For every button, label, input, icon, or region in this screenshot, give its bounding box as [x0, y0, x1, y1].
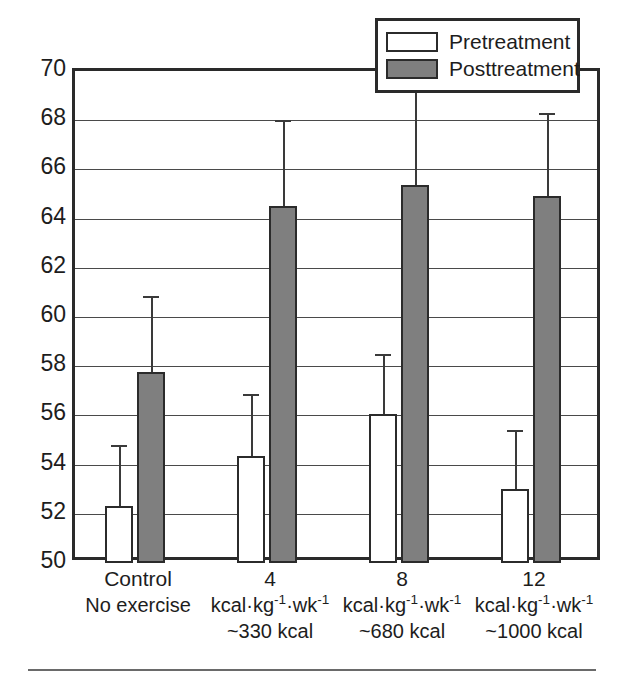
gridline-68 [75, 120, 597, 121]
chart-legend: Pretreatment Posttreatment [375, 18, 580, 93]
error-bar-cap-pre-2 [375, 354, 391, 356]
y-axis-tick-66: 66 [14, 155, 66, 178]
bottom-divider-rule [28, 669, 596, 671]
x-label-line2-1: kcal·kg-1·wk-1 [204, 592, 336, 618]
x-label-line2-0: No exercise [72, 592, 204, 618]
x-label-line2-3: kcal·kg-1·wk-1 [468, 592, 600, 618]
bar-posttreatment-3 [533, 196, 561, 563]
bar-posttreatment-2 [401, 185, 429, 563]
x-label-line1-2: 8 [336, 566, 468, 592]
x-label-line3-2: ~680 kcal [336, 618, 468, 644]
x-label-group-3: 12kcal·kg-1·wk-1~1000 kcal [468, 566, 600, 644]
x-label-line3-1: ~330 kcal [204, 618, 336, 644]
legend-label-posttreatment: Posttreatment [449, 58, 580, 79]
gridline-60 [75, 317, 597, 318]
y-axis-tick-68: 68 [14, 106, 66, 129]
x-label-line3-3: ~1000 kcal [468, 618, 600, 644]
error-bar-line-pre-3 [515, 430, 517, 489]
bar-posttreatment-0 [137, 372, 165, 563]
error-bar-cap-pre-3 [507, 430, 523, 432]
error-bar-line-post-2 [415, 88, 417, 185]
error-bar-cap-pre-1 [243, 394, 259, 396]
bar-pretreatment-2 [369, 414, 397, 563]
legend-swatch-posttreatment [386, 59, 438, 79]
figure-bar-chart: 7068666462605856545250 Pretreatment Post… [0, 0, 623, 686]
y-axis-tick-54: 54 [14, 450, 66, 473]
legend-item-posttreatment: Posttreatment [386, 55, 569, 82]
y-axis-tick-52: 52 [14, 499, 66, 522]
x-label-group-0: ControlNo exercise [72, 566, 204, 618]
x-label-group-2: 8kcal·kg-1·wk-1~680 kcal [336, 566, 468, 644]
x-label-line2-2: kcal·kg-1·wk-1 [336, 592, 468, 618]
y-axis-tick-56: 56 [14, 401, 66, 424]
gridline-58 [75, 366, 597, 367]
x-label-line1-1: 4 [204, 566, 336, 592]
x-axis-category-labels: ControlNo exercise4kcal·kg-1·wk-1~330 kc… [72, 566, 600, 666]
error-bar-cap-pre-0 [111, 445, 127, 447]
error-bar-line-pre-2 [383, 354, 385, 414]
bar-pretreatment-0 [105, 506, 133, 563]
bar-pretreatment-3 [501, 489, 529, 563]
error-bar-cap-post-0 [143, 296, 159, 298]
error-bar-line-pre-0 [119, 445, 121, 507]
y-axis-tick-50: 50 [14, 549, 66, 572]
bar-posttreatment-1 [269, 206, 297, 563]
gridline-64 [75, 219, 597, 220]
y-axis-tick-70: 70 [14, 57, 66, 80]
plot-area [72, 68, 600, 560]
error-bar-line-post-3 [547, 113, 549, 197]
error-bar-line-pre-1 [251, 394, 253, 456]
x-label-group-1: 4kcal·kg-1·wk-1~330 kcal [204, 566, 336, 644]
legend-item-pretreatment: Pretreatment [386, 28, 569, 55]
error-bar-line-post-1 [283, 120, 285, 206]
legend-label-pretreatment: Pretreatment [449, 31, 570, 52]
y-axis-tick-60: 60 [14, 303, 66, 326]
error-bar-line-post-0 [151, 296, 153, 372]
y-axis-tick-62: 62 [14, 253, 66, 276]
error-bar-cap-post-1 [275, 120, 291, 122]
y-axis-tick-64: 64 [14, 204, 66, 227]
gridline-62 [75, 268, 597, 269]
legend-swatch-pretreatment [386, 32, 438, 52]
error-bar-cap-post-3 [539, 113, 555, 115]
gridline-66 [75, 169, 597, 170]
y-axis-tick-58: 58 [14, 352, 66, 375]
x-label-line1-0: Control [72, 566, 204, 592]
bar-pretreatment-1 [237, 456, 265, 563]
x-label-line1-3: 12 [468, 566, 600, 592]
